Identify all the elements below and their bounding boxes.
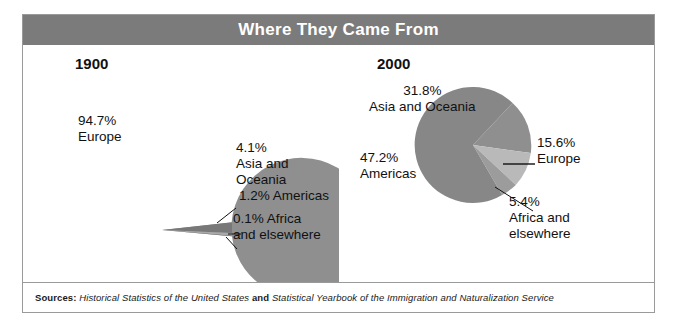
pie-slice-asia-1900 [162, 222, 232, 233]
pie-label-americas-pct-2000: 47.2% [360, 150, 416, 166]
pie-label-americas-1900: 1.2% Americas [239, 188, 329, 204]
pie-label-europe-name-2000: Europe [537, 151, 581, 167]
pie-label-europe-pct-2000: 15.6% [537, 135, 581, 151]
pie-label-africa-2000: 5.4% Africa and elsewhere [509, 194, 571, 242]
pie-label-asia-2000: 31.8% Asia and Oceania [369, 83, 476, 115]
source-title-2: Statistical Yearbook of the Immigration … [272, 292, 554, 303]
charts-container: 1900 94.7% Europe 4.1% [23, 45, 654, 283]
pie-label-europe-name-1900: Europe [78, 129, 122, 145]
sources-text: Sources: Historical Statistics of the Un… [35, 292, 554, 303]
sources-footer: Sources: Historical Statistics of the Un… [23, 282, 654, 312]
pie-label-africa-pct-2000: 5.4% [509, 194, 571, 210]
chart-figure: Where They Came From 1900 94.7% [22, 14, 655, 313]
pie-label-europe-pct-1900: 94.7% [78, 113, 122, 129]
pie-label-asia-pct-2000: 31.8% [369, 83, 476, 99]
pie-label-europe-1900: 94.7% Europe [78, 113, 122, 145]
pie-label-asia-name2-1900: Oceania [236, 172, 289, 188]
pie-label-asia-pct-1900: 4.1% [236, 140, 289, 156]
pie-label-americas-2000: 47.2% Americas [360, 150, 416, 182]
pie-label-africa-line1-1900: 0.1% Africa [233, 211, 321, 227]
pie-label-africa-line2-2000: elsewhere [509, 226, 571, 242]
pie-label-asia-name1-1900: Asia and [236, 156, 289, 172]
pie-label-africa-line2-1900: and elsewhere [233, 227, 321, 243]
page-title: Where They Came From [238, 20, 439, 40]
pie-label-asia-1900: 4.1% Asia and Oceania [236, 140, 289, 188]
sources-conjunction: and [252, 292, 269, 303]
pie-label-africa-1900: 0.1% Africa and elsewhere [233, 211, 321, 243]
pie-label-africa-line1-2000: Africa and [509, 210, 571, 226]
chart-title-bar: Where They Came From [23, 15, 654, 45]
sources-label: Sources: [35, 292, 76, 303]
pie-label-europe-2000: 15.6% Europe [537, 135, 581, 167]
pie-chart-1900: 1900 94.7% Europe 4.1% [23, 45, 339, 283]
pie-label-asia-name-2000: Asia and Oceania [369, 99, 476, 115]
pie-label-americas-name-2000: Americas [360, 166, 416, 182]
pie-chart-2000: 2000 31.8% Asia and Oceania 4 [339, 45, 654, 283]
source-title-1: Historical Statistics of the United Stat… [79, 292, 249, 303]
pie-svg-1900 [23, 45, 339, 283]
